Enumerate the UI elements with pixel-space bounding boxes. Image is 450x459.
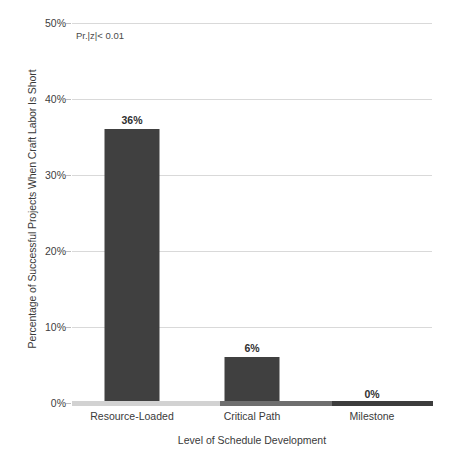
y-axis-tick-mark <box>66 99 71 100</box>
bar-chart: Percentage of Successful Projects When C… <box>0 0 450 459</box>
x-axis-title: Level of Schedule Development <box>72 434 432 446</box>
y-axis-tick-mark <box>66 175 71 176</box>
x-axis-category-label: Milestone <box>312 410 432 422</box>
y-axis-tick-label: 40% <box>26 93 66 105</box>
y-axis-tick-labels: 0%10%20%30%40%50% <box>26 0 66 459</box>
x-axis-category-label: Resource-Loaded <box>72 410 192 422</box>
x-axis-category-labels: Resource-LoadedCritical PathMilestone <box>72 0 432 459</box>
significance-annotation: Pr.|z|< 0.01 <box>76 30 124 41</box>
y-axis-tick-mark <box>66 327 71 328</box>
y-axis-tick-mark <box>66 251 71 252</box>
y-axis-tick-label: 50% <box>26 17 66 29</box>
y-axis-tick-label: 30% <box>26 169 66 181</box>
y-axis-tick-label: 20% <box>26 245 66 257</box>
y-axis-tick-mark <box>66 23 71 24</box>
x-axis-category-label: Critical Path <box>192 410 312 422</box>
y-axis-tick-label: 10% <box>26 321 66 333</box>
y-axis-tick-label: 0% <box>26 397 66 409</box>
y-axis-tick-mark <box>66 403 71 404</box>
